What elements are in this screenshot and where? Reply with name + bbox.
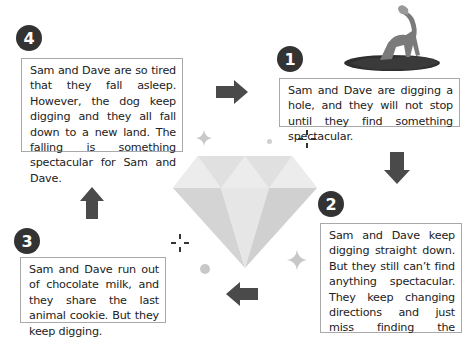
step-1-badge: 1: [277, 46, 303, 72]
step-3-text-box: Sam and Dave run out of chocolate milk, …: [20, 257, 166, 323]
arrow-down-icon: [384, 152, 410, 184]
arrow-right-icon: [216, 80, 248, 104]
step-4-badge: 4: [16, 25, 42, 51]
step-2-text-box: Sam and Dave keep digging straight down.…: [320, 223, 462, 333]
step-3-badge: 3: [14, 228, 40, 254]
dot-icon: [267, 139, 272, 144]
crosshair-sparkle-icon: [171, 234, 189, 252]
dot-icon: [200, 264, 210, 274]
arrow-left-icon: [226, 282, 258, 306]
step-2-badge: 2: [318, 191, 344, 217]
sparkle-icon: [196, 130, 212, 146]
dog-digging-icon: [340, 5, 445, 73]
step-4-text-box: Sam and Dave are so tired that they fall…: [21, 58, 183, 152]
sparkle-icon: [287, 250, 307, 270]
crosshair-sparkle-icon: [298, 130, 316, 148]
step-1-text-box: Sam and Dave are digging a hole, and the…: [279, 78, 460, 127]
arrow-up-icon: [80, 187, 104, 219]
